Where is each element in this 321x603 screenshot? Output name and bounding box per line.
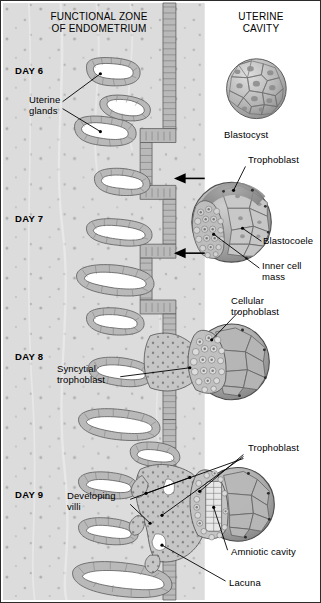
blastocyst-day7 [192, 182, 272, 262]
cellular-trophoblast [188, 330, 226, 393]
label-blastocyst: Blastocyst [224, 129, 268, 140]
day-label-7: DAY 7 [15, 213, 43, 224]
panel-title-right: UTERINE CAVITY [211, 11, 311, 34]
day-label-8: DAY 8 [15, 351, 43, 362]
label-blastocoele: Blastocoele [263, 235, 313, 246]
label-amniotic-cavity: Amniotic cavity [231, 546, 296, 557]
day-label-6: DAY 6 [15, 65, 43, 76]
blastocyst-day6 [227, 59, 287, 119]
panel-title-left: FUNCTIONAL ZONE OF ENDOMETRIUM [19, 11, 179, 34]
label-inner-cell-mass: Inner cell mass [262, 260, 302, 282]
label-syncytial-trophoblast: Syncytial trophoblast [57, 363, 105, 385]
day-label-9: DAY 9 [15, 489, 43, 500]
embryo-day8 [144, 324, 269, 400]
label-lacuna: Lacuna [229, 577, 261, 588]
label-uterine-glands: Uterine glands [29, 94, 60, 116]
label-trophoblast-day9: Trophoblast [248, 442, 299, 453]
implantation-diagram: FUNCTIONAL ZONE OF ENDOMETRIUM UTERINE C… [0, 0, 321, 603]
amniotic-cavity-region [190, 470, 228, 540]
gland [86, 58, 140, 86]
label-trophoblast-day7: Trophoblast [248, 154, 299, 165]
label-cellular-trophoblast: Cellular trophoblast [231, 295, 279, 317]
label-developing-villi: Developing villi [67, 490, 116, 512]
